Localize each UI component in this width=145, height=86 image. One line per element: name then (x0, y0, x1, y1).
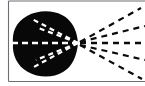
figure-container (0, 0, 145, 86)
figure-canvas (0, 0, 145, 86)
